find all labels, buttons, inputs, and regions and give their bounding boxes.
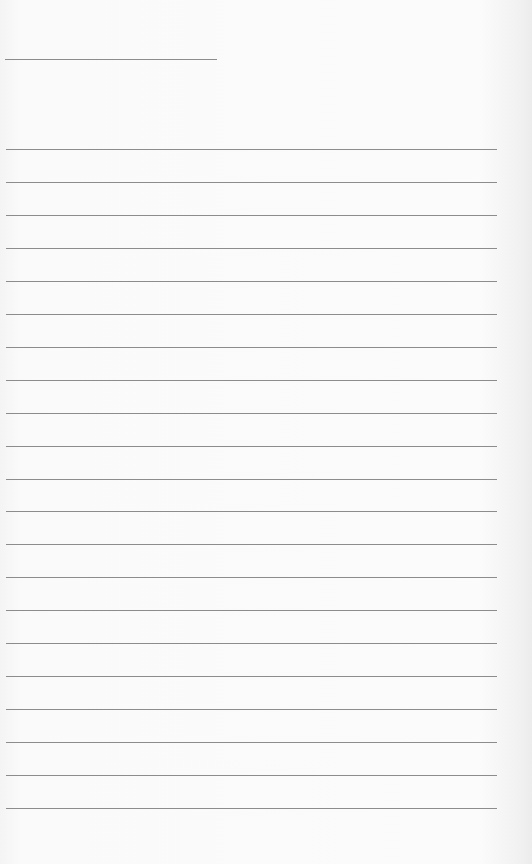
ruled-line	[6, 347, 497, 348]
ruled-line	[6, 380, 497, 381]
ruled-line	[6, 281, 497, 282]
ruled-line	[6, 610, 497, 611]
ruled-line	[6, 808, 497, 809]
ruled-line	[6, 742, 497, 743]
ruled-line	[6, 577, 497, 578]
lined-paper-page	[0, 0, 532, 864]
ruled-line	[6, 248, 497, 249]
ruled-line	[6, 314, 497, 315]
ruled-line	[6, 446, 497, 447]
ruled-line	[6, 643, 497, 644]
ruled-line	[6, 413, 497, 414]
ruled-line	[6, 511, 497, 512]
ruled-line	[6, 479, 497, 480]
ruled-line	[6, 182, 497, 183]
name-line	[5, 59, 217, 60]
ruled-line	[6, 544, 497, 545]
ruled-line	[6, 215, 497, 216]
ruled-line	[6, 775, 497, 776]
ruled-line	[6, 709, 497, 710]
ruled-line	[6, 149, 497, 150]
ruled-line	[6, 676, 497, 677]
